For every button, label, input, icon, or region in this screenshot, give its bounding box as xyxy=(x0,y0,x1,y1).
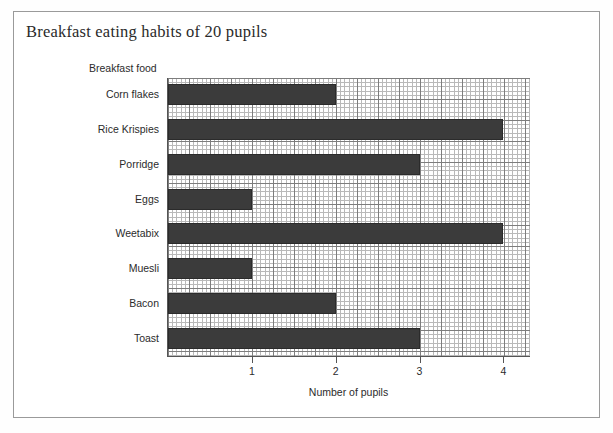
plot-area: Corn flakesRice KrispiesPorridgeEggsWeet… xyxy=(167,78,530,357)
x-tick-3 xyxy=(420,357,421,363)
bar-series: Corn flakesRice KrispiesPorridgeEggsWeet… xyxy=(168,78,530,356)
category-label-porridge: Porridge xyxy=(119,154,159,175)
bar-porridge xyxy=(168,154,420,175)
bar-toast xyxy=(168,328,420,349)
x-tick-label-1: 1 xyxy=(249,365,255,377)
category-label-weetabix: Weetabix xyxy=(115,223,159,244)
bar-muesli xyxy=(168,258,252,279)
category-label-toast: Toast xyxy=(134,328,159,349)
category-label-corn-flakes: Corn flakes xyxy=(106,84,159,105)
chart-page: Breakfast eating habits of 20 pupils Bre… xyxy=(0,0,613,433)
bar-weetabix xyxy=(168,223,503,244)
category-label-eggs: Eggs xyxy=(135,189,159,210)
x-tick-label-3: 3 xyxy=(417,365,423,377)
x-axis-title: Number of pupils xyxy=(167,386,530,398)
category-label-muesli: Muesli xyxy=(129,258,159,279)
x-tick-label-2: 2 xyxy=(333,365,339,377)
x-tick-label-4: 4 xyxy=(500,365,506,377)
x-tick-4 xyxy=(503,357,504,363)
category-label-rice-krispies: Rice Krispies xyxy=(98,119,159,140)
bar-bacon xyxy=(168,293,336,314)
x-tick-2 xyxy=(336,357,337,363)
bar-corn-flakes xyxy=(168,84,336,105)
chart-title: Breakfast eating habits of 20 pupils xyxy=(26,22,267,42)
bar-rice-krispies xyxy=(168,119,503,140)
category-label-bacon: Bacon xyxy=(129,293,159,314)
bar-eggs xyxy=(168,189,252,210)
y-axis-title: Breakfast food xyxy=(89,62,157,74)
x-tick-1 xyxy=(252,357,253,363)
